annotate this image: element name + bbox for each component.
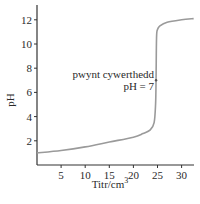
x-tick-label: 10	[80, 169, 92, 181]
x-axis-label: Titr/cm3	[92, 176, 129, 190]
y-tick-label: 2	[27, 135, 33, 147]
y-tick-label: 12	[21, 14, 32, 26]
x-tick-label: 25	[152, 169, 164, 181]
y-ticks: 24681012	[21, 14, 37, 147]
titration-chart: 24681012 51015202530 pwynt cywerthedd pH…	[0, 0, 200, 204]
equivalence-label: pwynt cywerthedd	[72, 68, 154, 80]
y-tick-label: 6	[27, 86, 33, 98]
y-axis-label: pH	[4, 93, 16, 107]
x-tick-label: 20	[128, 169, 140, 181]
x-tick-label: 5	[58, 169, 64, 181]
y-tick-label: 8	[27, 62, 33, 74]
y-tick-label: 4	[27, 111, 33, 123]
equivalence-point-marker	[155, 79, 157, 81]
equivalence-ph-label: pH = 7	[123, 80, 154, 92]
y-tick-label: 10	[21, 38, 33, 50]
x-tick-label: 30	[176, 169, 188, 181]
axes: 24681012 51015202530	[21, 5, 194, 181]
titration-curve	[37, 19, 194, 153]
